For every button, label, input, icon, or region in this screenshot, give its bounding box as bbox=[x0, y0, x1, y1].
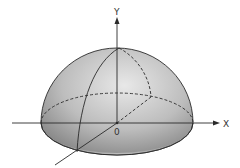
x-axis-label: X bbox=[223, 119, 229, 129]
hemisphere-diagram: Y X 0 bbox=[0, 0, 240, 168]
y-axis-arrow-icon bbox=[115, 17, 120, 24]
origin-point bbox=[116, 122, 119, 125]
origin-label: 0 bbox=[114, 127, 120, 137]
y-axis-label: Y bbox=[113, 7, 120, 17]
x-axis-arrow-icon bbox=[213, 121, 220, 126]
